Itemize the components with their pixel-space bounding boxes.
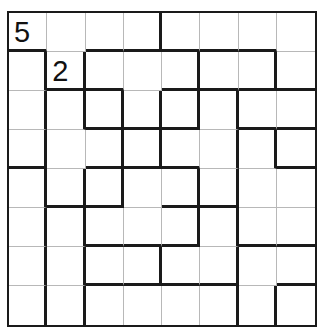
grid-cell-r3-c5[interactable] (200, 130, 238, 169)
grid-cell-r2-c3[interactable] (124, 91, 162, 130)
clue-number: 2 (52, 57, 68, 86)
grid-cell-r5-c5[interactable] (200, 208, 238, 247)
grid-cell-r7-c5[interactable] (200, 286, 238, 325)
grid-cell-r5-c6[interactable] (239, 208, 277, 247)
grid-cell-r0-c4[interactable] (162, 13, 200, 52)
grid-cell-r0-c0[interactable]: 5 (9, 13, 47, 52)
grid-cell-r0-c1[interactable] (47, 13, 85, 52)
grid-cell-r4-c0[interactable] (9, 169, 47, 208)
grid-cell-r1-c7[interactable] (277, 52, 315, 91)
grid-cell-r0-c5[interactable] (200, 13, 238, 52)
grid-cell-r2-c6[interactable] (239, 91, 277, 130)
grid-cell-r2-c1[interactable] (47, 91, 85, 130)
grid-cell-r4-c6[interactable] (239, 169, 277, 208)
grid-cell-r1-c5[interactable] (200, 52, 238, 91)
grid-cell-r5-c7[interactable] (277, 208, 315, 247)
grid-cell-r6-c7[interactable] (277, 247, 315, 286)
grid-cell-r0-c6[interactable] (239, 13, 277, 52)
grid-cell-r6-c0[interactable] (9, 247, 47, 286)
grid-cell-r7-c4[interactable] (162, 286, 200, 325)
grid-cell-r7-c6[interactable] (239, 286, 277, 325)
grid-cell-r3-c3[interactable] (124, 130, 162, 169)
grid-cell-r4-c2[interactable] (86, 169, 124, 208)
grid-cell-r4-c3[interactable] (124, 169, 162, 208)
grid-cell-r5-c2[interactable] (86, 208, 124, 247)
grid-cell-r3-c1[interactable] (47, 130, 85, 169)
grid-cell-r2-c4[interactable] (162, 91, 200, 130)
grid-cell-r1-c1[interactable]: 2 (47, 52, 85, 91)
grid-cell-r6-c1[interactable] (47, 247, 85, 286)
grid-cell-r1-c6[interactable] (239, 52, 277, 91)
grid-cell-r4-c5[interactable] (200, 169, 238, 208)
grid-cell-r3-c2[interactable] (86, 130, 124, 169)
clue-number: 5 (14, 18, 30, 47)
puzzle-grid: 52 (7, 11, 317, 327)
grid-cell-r3-c0[interactable] (9, 130, 47, 169)
grid-cell-r2-c0[interactable] (9, 91, 47, 130)
grid-cell-r3-c4[interactable] (162, 130, 200, 169)
grid-cell-r2-c7[interactable] (277, 91, 315, 130)
grid-cell-r4-c4[interactable] (162, 169, 200, 208)
grid-cell-r2-c5[interactable] (200, 91, 238, 130)
grid-cell-r5-c0[interactable] (9, 208, 47, 247)
grid-cell-r2-c2[interactable] (86, 91, 124, 130)
grid-cell-r5-c4[interactable] (162, 208, 200, 247)
grid-cell-r0-c7[interactable] (277, 13, 315, 52)
grid-cell-r7-c1[interactable] (47, 286, 85, 325)
grid-cell-r5-c3[interactable] (124, 208, 162, 247)
grid-cell-r6-c5[interactable] (200, 247, 238, 286)
grid-cell-r3-c6[interactable] (239, 130, 277, 169)
grid-cell-r4-c7[interactable] (277, 169, 315, 208)
grid-cell-r5-c1[interactable] (47, 208, 85, 247)
grid-cell-r0-c2[interactable] (86, 13, 124, 52)
grid-cell-r6-c2[interactable] (86, 247, 124, 286)
grid-cell-r7-c3[interactable] (124, 286, 162, 325)
grid-cell-r1-c3[interactable] (124, 52, 162, 91)
grid-cell-r4-c1[interactable] (47, 169, 85, 208)
grid-cell-r1-c4[interactable] (162, 52, 200, 91)
grid-cell-r7-c7[interactable] (277, 286, 315, 325)
grid-cell-r7-c0[interactable] (9, 286, 47, 325)
grid-cell-r1-c0[interactable] (9, 52, 47, 91)
grid-cell-r6-c6[interactable] (239, 247, 277, 286)
grid-cell-r6-c4[interactable] (162, 247, 200, 286)
grid-cell-r0-c3[interactable] (124, 13, 162, 52)
grid-cell-r3-c7[interactable] (277, 130, 315, 169)
grid-cell-r7-c2[interactable] (86, 286, 124, 325)
grid-cell-r6-c3[interactable] (124, 247, 162, 286)
grid-cell-r1-c2[interactable] (86, 52, 124, 91)
